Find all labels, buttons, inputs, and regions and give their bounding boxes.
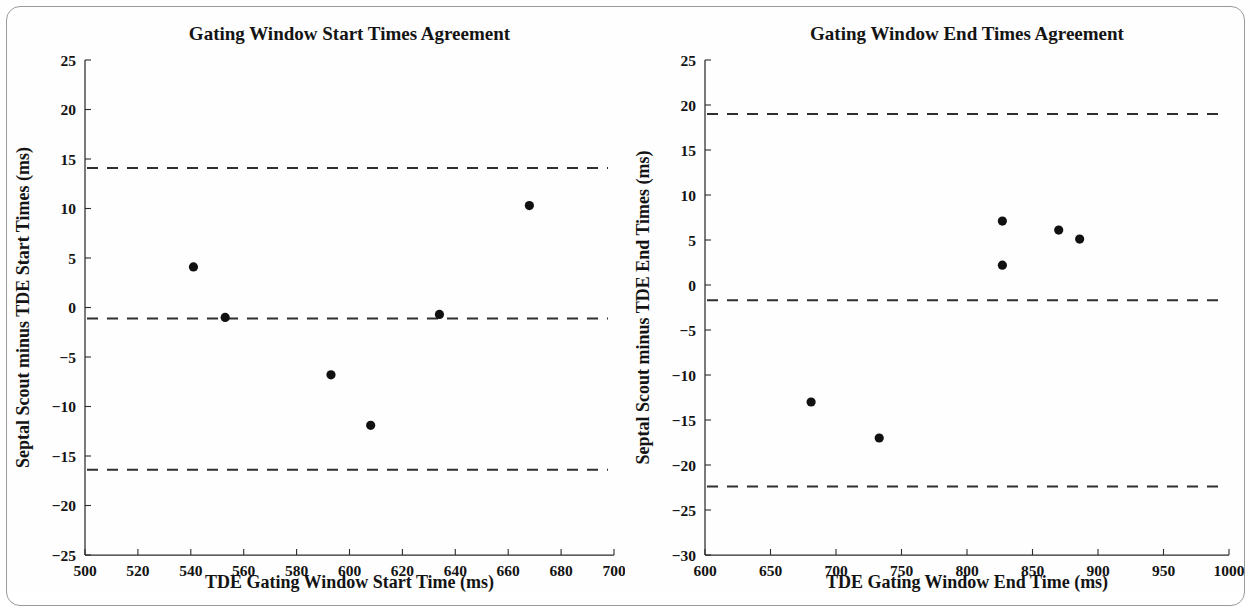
data-point <box>525 201 534 210</box>
chart-title: Gating Window End Times Agreement <box>810 23 1125 44</box>
y-axis-tick-label: 15 <box>61 151 77 168</box>
x-axis-tick-label: 500 <box>73 562 97 579</box>
y-axis-tick-label: 0 <box>688 277 696 294</box>
data-point <box>1075 235 1084 244</box>
chart-title: Gating Window Start Times Agreement <box>189 23 511 44</box>
x-axis-tick-label: 540 <box>179 562 203 579</box>
scatter-plot-end-times: Gating Window End Times Agreement2520151… <box>626 0 1251 592</box>
data-point <box>998 217 1007 226</box>
y-axis-tick-label: 5 <box>688 232 696 249</box>
y-axis-tick-label: −15 <box>52 448 77 465</box>
x-axis-tick-label: 680 <box>549 562 573 579</box>
x-axis-title: TDE Gating Window Start Time (ms) <box>205 572 494 592</box>
chart-panel-start-times: Gating Window Start Times Agreement25201… <box>0 0 625 592</box>
y-axis-tick-label: −30 <box>672 547 697 564</box>
y-axis-tick-label: 0 <box>68 299 76 316</box>
y-axis-tick-label: −20 <box>672 457 697 474</box>
y-axis-title: Septal Scout minus TDE Start Times (ms) <box>13 147 34 468</box>
data-point <box>435 310 444 319</box>
y-axis-tick-label: −20 <box>52 497 77 514</box>
data-point <box>221 313 230 322</box>
x-axis-tick-label: 1000 <box>1214 562 1245 579</box>
y-axis-tick-label: 25 <box>681 52 697 69</box>
y-axis-tick-label: 10 <box>61 200 77 217</box>
y-axis-tick-label: −25 <box>672 502 697 519</box>
data-point <box>1054 226 1063 235</box>
y-axis-title: Septal Scout minus TDE End Times (ms) <box>633 150 654 464</box>
x-axis-tick-label: 950 <box>1152 562 1176 579</box>
y-axis-tick-label: −5 <box>679 322 696 339</box>
x-axis-tick-label: 700 <box>602 562 625 579</box>
y-axis-tick-label: 10 <box>681 187 697 204</box>
y-axis-tick-label: 5 <box>68 250 76 267</box>
data-point <box>366 421 375 430</box>
x-axis-tick-label: 650 <box>759 562 783 579</box>
y-axis-tick-label: −25 <box>52 547 77 564</box>
data-point <box>189 262 198 271</box>
data-point <box>326 370 335 379</box>
y-axis-tick-label: 20 <box>61 101 77 118</box>
chart-panel-end-times: Gating Window End Times Agreement2520151… <box>626 0 1251 592</box>
scatter-plot-start-times: Gating Window Start Times Agreement25201… <box>0 0 625 592</box>
y-axis-tick-label: −5 <box>59 349 76 366</box>
y-axis-tick-label: 25 <box>61 52 77 69</box>
y-axis-tick-label: 20 <box>681 97 697 114</box>
x-axis-title: TDE Gating Window End Time (ms) <box>826 572 1108 592</box>
y-axis-tick-label: −15 <box>672 412 697 429</box>
data-point <box>807 397 816 406</box>
y-axis-tick-label: −10 <box>52 398 77 415</box>
y-axis-tick-label: 15 <box>681 142 697 159</box>
x-axis-tick-label: 600 <box>693 562 717 579</box>
x-axis-tick-label: 660 <box>497 562 521 579</box>
data-point <box>875 433 884 442</box>
y-axis-tick-label: −10 <box>672 367 697 384</box>
x-axis-tick-label: 520 <box>126 562 150 579</box>
data-point <box>998 261 1007 270</box>
